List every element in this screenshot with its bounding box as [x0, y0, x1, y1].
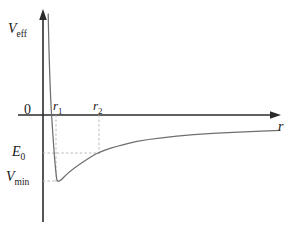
r1-label: r1 [53, 99, 62, 115]
origin-label: 0 [24, 103, 31, 117]
x-axis-label: r [278, 120, 283, 134]
r2-label: r2 [93, 99, 102, 115]
y-axis-label: Veff [8, 22, 27, 39]
vmin-label: Vmin [6, 170, 29, 187]
guide-lines [43, 115, 100, 184]
plot-canvas [0, 0, 291, 231]
e0-label: E0 [12, 145, 25, 162]
vmin-label-subscript: min [15, 177, 30, 187]
r2-label-subscript: 2 [98, 106, 102, 116]
r1-label-subscript: 1 [58, 106, 62, 116]
effective-potential-figure: Veff r 0 r1 r2 E0 Vmin [0, 0, 291, 231]
effective-potential-curve [48, 14, 280, 181]
e0-label-subscript: 0 [21, 152, 26, 162]
y-axis-label-subscript: eff [17, 29, 27, 39]
